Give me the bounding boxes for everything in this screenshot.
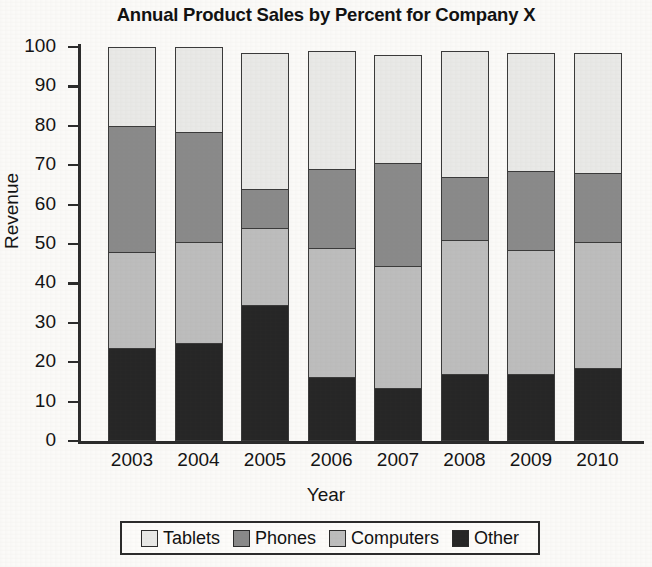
bar-segment-computers[interactable]: [241, 228, 289, 305]
bar-segment-computers[interactable]: [175, 242, 223, 342]
x-axis-tick-label: 2009: [496, 449, 566, 471]
legend-label: Phones: [255, 528, 316, 549]
x-axis-tick-label: 2003: [97, 449, 167, 471]
chart-title: Annual Product Sales by Percent for Comp…: [0, 4, 652, 26]
y-axis-tick-label: 100: [0, 36, 56, 55]
bar-segment-computers[interactable]: [374, 266, 422, 388]
bar-stack[interactable]: [175, 47, 223, 441]
legend-label: Computers: [351, 528, 439, 549]
bar-segment-tablets[interactable]: [441, 51, 489, 177]
y-axis-tick-label: 80: [0, 115, 56, 134]
bar-segment-computers[interactable]: [507, 250, 555, 374]
bar-segment-phones[interactable]: [308, 169, 356, 248]
bar-segment-phones[interactable]: [175, 132, 223, 242]
x-axis-tick-label: 2007: [363, 449, 433, 471]
bar-segment-tablets[interactable]: [374, 55, 422, 163]
x-axis-title: Year: [0, 484, 652, 506]
bar-segment-computers[interactable]: [441, 240, 489, 374]
bar-segment-other[interactable]: [175, 343, 223, 442]
x-axis-tick-label: 2008: [430, 449, 500, 471]
y-axis-tick-label: 30: [0, 312, 56, 331]
bar-segment-computers[interactable]: [308, 248, 356, 377]
legend-label: Other: [474, 528, 519, 549]
legend-swatch-icon: [452, 530, 469, 547]
bar-segment-phones[interactable]: [374, 163, 422, 265]
y-axis-tick-label: 90: [0, 75, 56, 94]
legend-label: Tablets: [163, 528, 220, 549]
legend-item[interactable]: Tablets: [141, 528, 220, 549]
bar-stack[interactable]: [241, 47, 289, 441]
bar-stack[interactable]: [108, 47, 156, 441]
legend-swatch-icon: [233, 530, 250, 547]
bar-segment-other[interactable]: [441, 374, 489, 441]
legend-swatch-icon: [141, 530, 158, 547]
bar-segment-other[interactable]: [308, 377, 356, 441]
bar-stack[interactable]: [507, 47, 555, 441]
bar-stack[interactable]: [574, 47, 622, 441]
bar-segment-other[interactable]: [108, 348, 156, 441]
bar-segment-tablets[interactable]: [574, 53, 622, 173]
bar-segment-other[interactable]: [241, 305, 289, 441]
y-axis-tick-label: 70: [0, 154, 56, 173]
x-axis-line: [78, 441, 644, 444]
chart-legend: TabletsPhonesComputersOther: [120, 521, 540, 555]
legend-swatch-icon: [329, 530, 346, 547]
bar-segment-tablets[interactable]: [241, 53, 289, 189]
legend-item[interactable]: Other: [452, 528, 519, 549]
bar-segment-other[interactable]: [574, 368, 622, 441]
y-axis-tick-label: 40: [0, 272, 56, 291]
chart-figure: Annual Product Sales by Percent for Comp…: [0, 0, 652, 567]
bar-segment-phones[interactable]: [507, 171, 555, 250]
bar-segment-phones[interactable]: [108, 126, 156, 252]
bar-segment-phones[interactable]: [574, 173, 622, 242]
y-axis-title: Revenue: [1, 173, 23, 249]
y-axis-tick-label: 20: [0, 351, 56, 370]
bar-segment-tablets[interactable]: [108, 47, 156, 126]
bar-segment-tablets[interactable]: [175, 47, 223, 132]
bar-stack[interactable]: [374, 47, 422, 441]
bar-segment-phones[interactable]: [441, 177, 489, 240]
x-axis-tick-label: 2006: [297, 449, 367, 471]
bar-segment-computers[interactable]: [574, 242, 622, 368]
bar-segment-computers[interactable]: [108, 252, 156, 349]
bar-stack[interactable]: [308, 47, 356, 441]
bar-segment-tablets[interactable]: [507, 53, 555, 171]
bar-segment-other[interactable]: [374, 388, 422, 441]
bar-segment-other[interactable]: [507, 374, 555, 441]
plot-area: [78, 47, 644, 441]
bar-stack[interactable]: [441, 47, 489, 441]
bar-segment-tablets[interactable]: [308, 51, 356, 169]
x-axis-tick-label: 2004: [164, 449, 234, 471]
x-axis-tick-label: 2010: [563, 449, 633, 471]
legend-item[interactable]: Phones: [233, 528, 316, 549]
x-axis-tick-label: 2005: [230, 449, 300, 471]
y-axis-tick-label: 0: [0, 430, 56, 449]
legend-item[interactable]: Computers: [329, 528, 439, 549]
bar-segment-phones[interactable]: [241, 189, 289, 228]
y-axis-tick-label: 10: [0, 391, 56, 410]
